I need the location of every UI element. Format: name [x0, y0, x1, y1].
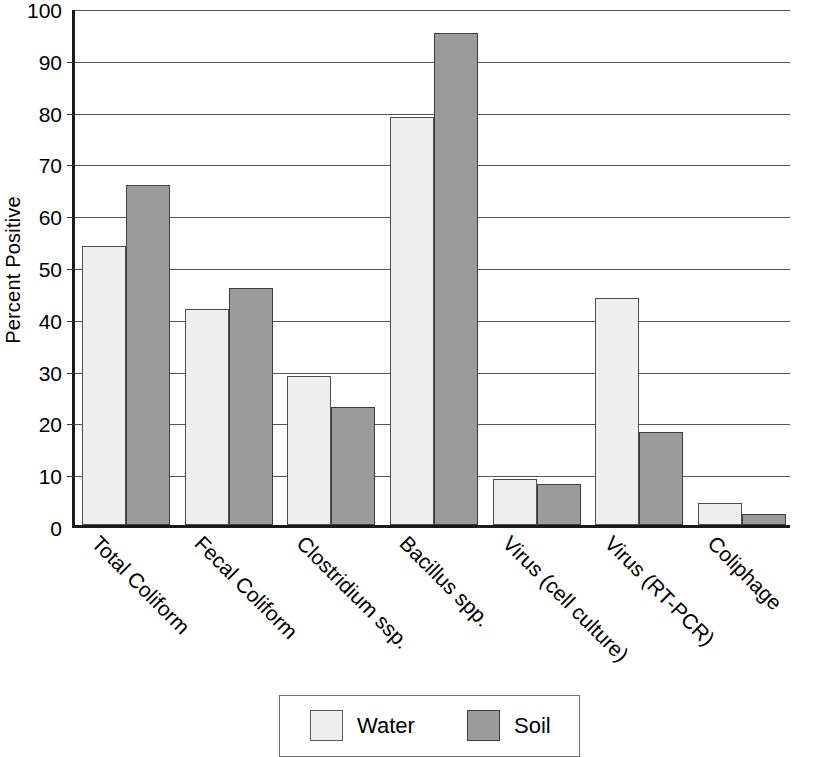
bar-water-1 — [185, 309, 229, 525]
bar-soil-2 — [331, 407, 375, 525]
legend-swatch-soil-icon — [467, 710, 500, 741]
bars-layer — [75, 10, 790, 525]
legend-entry-water: Water — [310, 710, 415, 741]
y-axis-tick-label: 50 — [39, 259, 62, 280]
y-axis-title: Percent Positive — [0, 0, 26, 540]
legend-entry-soil: Soil — [467, 710, 551, 741]
y-axis-tick-label: 70 — [39, 155, 62, 176]
y-axis-tick-label: 20 — [39, 414, 62, 435]
legend-label-soil: Soil — [514, 715, 551, 737]
y-axis-tick — [67, 373, 75, 374]
bar-soil-5 — [639, 432, 683, 525]
plot-area: 0102030405060708090100 — [72, 10, 790, 528]
x-axis-label-6: Coliphage — [704, 532, 786, 614]
y-axis-tick — [67, 217, 75, 218]
y-axis-tick-label: 80 — [39, 103, 62, 124]
legend-label-water: Water — [357, 715, 415, 737]
x-axis-labels: Total ColiformFecal ColiformClostridium … — [72, 528, 790, 688]
y-axis-tick-label: 40 — [39, 310, 62, 331]
y-axis-tick-label: 0 — [50, 518, 62, 539]
x-axis-label-1: Fecal Coliform — [191, 532, 302, 643]
bar-water-4 — [493, 479, 537, 525]
y-axis-tick — [67, 114, 75, 115]
y-axis-tick — [67, 321, 75, 322]
y-axis-tick-label: 90 — [39, 51, 62, 72]
y-axis-tick — [67, 165, 75, 166]
legend-swatch-water-icon — [310, 710, 343, 741]
y-axis-tick — [67, 476, 75, 477]
x-axis-label-3: Bacillus spp. — [396, 532, 494, 630]
bar-soil-6 — [742, 514, 786, 525]
x-axis-label-2: Clostridium ssp. — [294, 532, 414, 652]
bar-water-5 — [595, 298, 639, 525]
bar-water-2 — [287, 376, 331, 525]
bar-soil-3 — [434, 33, 478, 525]
y-axis-tick-label: 30 — [39, 362, 62, 383]
x-axis-label-0: Total Coliform — [88, 532, 194, 638]
y-axis-tick — [67, 269, 75, 270]
legend: Water Soil — [279, 695, 580, 757]
y-axis-tick — [67, 424, 75, 425]
bar-soil-4 — [537, 484, 581, 525]
bar-soil-1 — [229, 288, 273, 525]
y-axis-tick — [67, 62, 75, 63]
bar-water-0 — [82, 246, 126, 525]
bar-water-6 — [698, 503, 742, 525]
y-axis-tick-label: 10 — [39, 466, 62, 487]
bar-soil-0 — [126, 185, 170, 525]
bar-water-3 — [390, 117, 434, 525]
x-axis-label-5: Virus (RT-PCR) — [601, 532, 718, 649]
y-axis-tick-label: 60 — [39, 207, 62, 228]
y-axis-tick-label: 100 — [27, 0, 62, 21]
